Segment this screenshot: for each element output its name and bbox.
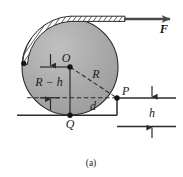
label-step-height-h: h	[149, 106, 155, 120]
label-radius-R: R	[91, 67, 100, 81]
figure-caption: (a)	[86, 158, 97, 169]
rope-anchor-dot	[21, 61, 26, 66]
label-center-O: O	[62, 51, 71, 65]
label-corner-P: P	[121, 84, 130, 98]
label-R-minus-h: R − h	[34, 75, 62, 89]
physics-figure-container: O Q P R F R − h d h (a)	[0, 0, 183, 177]
label-distance-d: d	[90, 99, 97, 113]
point-P-marker	[114, 95, 119, 100]
label-force-F: F	[159, 22, 169, 36]
point-O-marker	[67, 64, 72, 69]
figure-svg-canvas: O Q P R F R − h d h (a)	[0, 0, 183, 177]
label-contact-Q: Q	[66, 117, 75, 131]
